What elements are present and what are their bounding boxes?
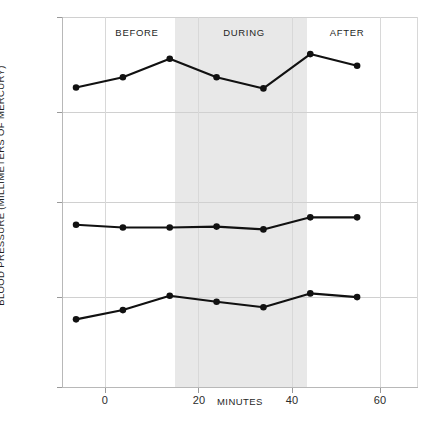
data-point-systolic-20 [166, 55, 173, 62]
blood-pressure-chart-figure: BLOOD PRESSURE (MILLIMETERS OF MERCURY) … [0, 0, 444, 428]
data-series-layer [62, 17, 418, 388]
data-point-mean-arterial-0 [73, 221, 80, 228]
data-point-mean-arterial-60 [354, 214, 361, 221]
plot-area: BEFORE DURING AFTER [62, 17, 418, 388]
series-line-diastolic [76, 293, 357, 319]
x-tick-mark-60 [380, 388, 381, 393]
x-tick-mark-40 [292, 388, 293, 393]
x-tick-label-60: 60 [366, 394, 394, 406]
data-point-mean-arterial-20 [166, 224, 173, 231]
x-tick-mark-0 [105, 388, 106, 393]
series-line-systolic [76, 54, 357, 88]
x-tick-mark-20 [198, 388, 199, 393]
data-point-systolic-60 [354, 62, 361, 69]
data-point-mean-arterial-10 [120, 224, 127, 231]
x-axis-title: MINUTES [217, 396, 263, 407]
x-tick-label-20: 20 [185, 394, 213, 406]
data-point-diastolic-60 [354, 294, 361, 301]
data-point-diastolic-0 [73, 316, 80, 323]
data-point-mean-arterial-30 [213, 223, 220, 230]
data-point-systolic-10 [120, 74, 127, 81]
data-point-systolic-40 [260, 85, 267, 92]
data-point-systolic-30 [213, 74, 220, 81]
x-tick-label-0: 0 [91, 394, 119, 406]
data-point-diastolic-40 [260, 304, 267, 311]
data-point-mean-arterial-40 [260, 226, 267, 233]
y-axis-title: BLOOD PRESSURE (MILLIMETERS OF MERCURY) [0, 0, 8, 371]
data-point-mean-arterial-50 [307, 214, 314, 221]
data-point-diastolic-50 [307, 290, 314, 297]
data-point-diastolic-30 [213, 298, 220, 305]
data-point-systolic-50 [307, 51, 314, 58]
data-point-systolic-0 [73, 84, 80, 91]
data-point-diastolic-20 [166, 292, 173, 299]
data-point-diastolic-10 [120, 307, 127, 314]
x-tick-label-40: 40 [278, 394, 306, 406]
